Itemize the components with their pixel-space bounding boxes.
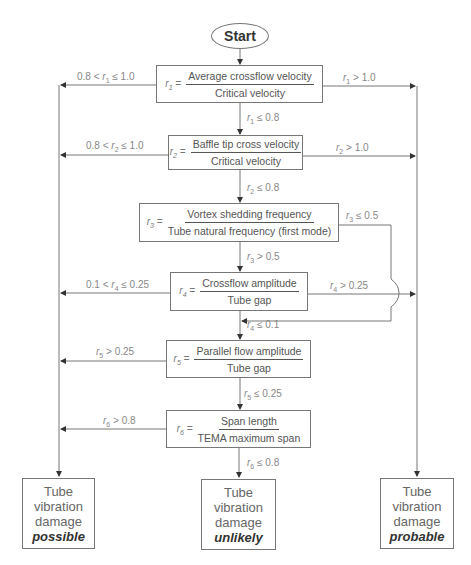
outcome-box-unlikely: Tube vibration damage unlikely <box>201 479 276 550</box>
outcome-text: damage <box>35 514 82 529</box>
edge-label-r3-right: r3 ≤ 0.5 <box>346 210 378 223</box>
outcome-verdict: unlikely <box>214 530 262 545</box>
fraction: Baffle tip cross velocity Critical veloc… <box>191 138 302 167</box>
denominator: TEMA maximum span <box>198 430 301 444</box>
variable-r4: r4 = <box>179 285 195 298</box>
edge-label-r1-right: r1 > 1.0 <box>343 72 376 85</box>
fraction: Average crossflow velocity Critical velo… <box>186 70 314 99</box>
edge-label-r2-left: 0.8 < r2 ≤ 1.0 <box>86 140 144 153</box>
outcome-text: vibration <box>214 500 263 515</box>
edge-label-r6-left: r6 > 0.8 <box>103 415 136 428</box>
variable-r5: r5 = <box>174 353 190 366</box>
decision-box-r4: r4 = Crossflow amplitude Tube gap <box>170 272 308 311</box>
numerator: Crossflow amplitude <box>200 277 299 292</box>
variable-r2: r2 = <box>170 146 186 159</box>
denominator: Tube gap <box>227 292 271 306</box>
decision-box-r3: r3 = Vortex shedding frequency Tube natu… <box>139 203 339 242</box>
outcome-text: damage <box>394 514 441 529</box>
start-label: Start <box>224 28 256 44</box>
variable-r3: r3 = <box>147 216 163 229</box>
fraction: Span length TEMA maximum span <box>198 415 301 444</box>
outcome-text: Tube <box>224 485 253 500</box>
numerator: Average crossflow velocity <box>186 70 314 85</box>
variable-r1: r1 = <box>165 78 181 91</box>
edge-label-r2-down: r2 ≤ 0.8 <box>247 182 279 195</box>
variable-r6: r6 = <box>177 423 193 436</box>
outcome-box-possible: Tube vibration damage possible <box>22 478 95 549</box>
edge-label-r2-right: r2 > 1.0 <box>336 142 369 155</box>
start-terminal: Start <box>211 23 269 49</box>
outcome-text: vibration <box>392 499 441 514</box>
outcome-verdict: probable <box>390 529 445 544</box>
fraction: Crossflow amplitude Tube gap <box>200 277 299 306</box>
denominator: Tube gap <box>227 360 271 374</box>
edge-label-r4-left: 0.1 < r4 ≤ 0.25 <box>86 279 149 292</box>
edge-label-r5-left: r5 > 0.25 <box>96 346 134 359</box>
outcome-text: vibration <box>34 499 83 514</box>
numerator: Parallel flow amplitude <box>194 345 303 360</box>
edge-label-r4-right: r4 > 0.25 <box>330 280 368 293</box>
outcome-text: Tube <box>402 484 431 499</box>
edge-label-r6-down: r6 ≤ 0.8 <box>247 457 279 470</box>
decision-box-r6: r6 = Span length TEMA maximum span <box>166 410 311 448</box>
fraction: Parallel flow amplitude Tube gap <box>194 345 303 374</box>
decision-box-r5: r5 = Parallel flow amplitude Tube gap <box>166 340 311 378</box>
denominator: Critical velocity <box>211 153 281 167</box>
numerator: Span length <box>219 415 279 430</box>
edge-label-r3-down: r3 > 0.5 <box>247 251 280 264</box>
decision-box-r2: r2 = Baffle tip cross velocity Critical … <box>168 135 303 170</box>
outcome-verdict: possible <box>32 529 85 544</box>
denominator: Tube natural frequency (first mode) <box>168 223 332 237</box>
numerator: Baffle tip cross velocity <box>191 138 302 153</box>
outcome-box-probable: Tube vibration damage probable <box>380 478 454 549</box>
edge-label-r1-down: r1 ≤ 0.8 <box>247 112 279 125</box>
outcome-text: damage <box>215 515 262 530</box>
outcome-text: Tube <box>44 484 73 499</box>
edge-label-r5-down: r5 ≤ 0.25 <box>244 388 282 401</box>
numerator: Vortex shedding frequency <box>185 208 313 223</box>
edge-label-r1-left: 0.8 < r1 ≤ 1.0 <box>77 71 135 84</box>
edge-label-r4-down: r4 ≤ 0.1 <box>247 319 279 332</box>
denominator: Critical velocity <box>215 85 285 99</box>
decision-box-r1: r1 = Average crossflow velocity Critical… <box>156 65 323 103</box>
fraction: Vortex shedding frequency Tube natural f… <box>168 208 332 237</box>
